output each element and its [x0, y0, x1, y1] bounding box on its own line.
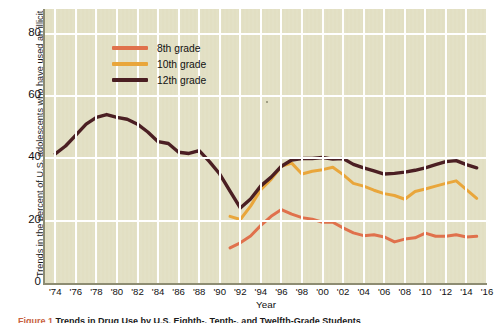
vertical-gridline	[260, 9, 262, 283]
legend-color-swatch	[112, 46, 148, 50]
legend-item-10th-grade: 10th grade	[112, 56, 237, 72]
vertical-gridline	[322, 9, 324, 283]
vertical-gridline	[424, 9, 426, 283]
vertical-gridline	[404, 9, 406, 283]
legend-label: 8th grade	[157, 43, 201, 54]
y-axis-tick-label: 0	[1, 275, 41, 287]
figure-caption-number: Figure 1	[18, 316, 53, 323]
vertical-gridline	[239, 9, 241, 283]
x-axis-title: Year	[45, 299, 487, 310]
legend-label: 12th grade	[157, 75, 206, 86]
horizontal-gridline	[45, 220, 487, 222]
vertical-gridline	[280, 9, 282, 283]
x-axis-tick-label: '16	[474, 286, 495, 297]
chart-figure: Trends in the percent of U.S. adolescent…	[0, 0, 495, 323]
legend-item-8th-grade: 8th grade	[112, 40, 237, 56]
y-axis-tick-label: 80	[1, 26, 41, 38]
horizontal-gridline	[45, 157, 487, 159]
vertical-gridline	[301, 9, 303, 283]
vertical-gridline	[75, 9, 77, 283]
paper-speck	[266, 101, 268, 103]
vertical-gridline	[95, 9, 97, 283]
chart-legend: 8th grade10th grade12th grade	[112, 40, 237, 88]
y-axis-spine	[43, 9, 45, 285]
legend-label: 10th grade	[157, 59, 206, 70]
vertical-gridline	[54, 9, 56, 283]
y-axis-tick-label: 60	[1, 88, 41, 100]
vertical-gridline	[445, 9, 447, 283]
legend-color-swatch	[112, 62, 148, 66]
legend-color-swatch	[112, 78, 148, 83]
vertical-gridline	[383, 9, 385, 283]
y-axis-tick-label: 20	[1, 213, 41, 225]
horizontal-gridline	[45, 33, 487, 35]
figure-caption-text: Trends in Drug Use by U.S. Eighth-, Tent…	[56, 316, 361, 323]
series-line-8th-grade	[230, 210, 477, 248]
horizontal-gridline	[45, 95, 487, 97]
series-line-10th-grade	[230, 163, 477, 219]
vertical-gridline	[342, 9, 344, 283]
y-axis-tick-labels: 020406080	[0, 0, 41, 295]
vertical-gridline	[363, 9, 365, 283]
vertical-gridline	[465, 9, 467, 283]
x-axis-spine	[43, 283, 487, 285]
vertical-gridline	[486, 9, 488, 283]
y-axis-tick-label: 40	[1, 150, 41, 162]
legend-item-12th-grade: 12th grade	[112, 72, 237, 88]
figure-caption: Figure 1 Trends in Drug Use by U.S. Eigh…	[18, 316, 478, 323]
